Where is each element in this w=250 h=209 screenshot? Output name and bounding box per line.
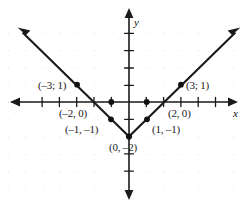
point-marker bbox=[178, 82, 184, 88]
point-marker bbox=[108, 116, 114, 122]
coordinate-plane-svg bbox=[0, 0, 250, 209]
point-label-1-neg1: (1, –1) bbox=[152, 124, 180, 135]
point-marker bbox=[144, 116, 150, 122]
graph-figure: y x (–3; 1) (–2, 0) (–1, –1) (0, –2) (1,… bbox=[0, 0, 250, 209]
y-axis-label: y bbox=[134, 17, 139, 28]
x-axis-label: x bbox=[233, 108, 238, 119]
point-label-3-1: (3; 1) bbox=[186, 80, 209, 91]
point-label-neg2-0: (–2, 0) bbox=[59, 108, 87, 119]
point-label-neg3-1: (–3; 1) bbox=[38, 80, 66, 91]
point-label-neg1-neg1: (–1, –1) bbox=[65, 124, 98, 135]
point-label-2-0: (2, 0) bbox=[168, 108, 191, 119]
point-marker bbox=[74, 82, 80, 88]
point-label-vertex-0-neg2: (0, –2) bbox=[109, 142, 137, 153]
point-marker bbox=[126, 134, 132, 140]
point-marker bbox=[144, 99, 150, 105]
point-marker bbox=[108, 99, 114, 105]
